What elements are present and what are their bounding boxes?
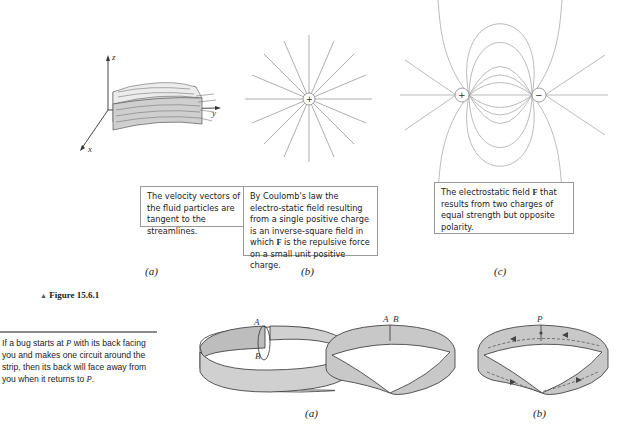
positive-charge: + <box>306 95 313 104</box>
mobius-strip <box>326 325 455 395</box>
caption-b: By Coulomb's law the electro-static fiel… <box>243 186 378 256</box>
mobius-strip-bug-path <box>478 325 608 395</box>
bottom-panel-a-label: (a) <box>305 407 318 419</box>
y-axis-label: y <box>211 108 216 118</box>
triangle-icon: ▲ <box>40 292 47 300</box>
mobius-b-label: B <box>393 314 399 324</box>
bottom-panel-b-label: (b) <box>533 407 546 419</box>
dipole-negative-charge: − <box>535 90 543 100</box>
dipole-field-diagram <box>400 0 608 190</box>
panel-a-label: (a) <box>145 265 158 277</box>
panel-b-label: (b) <box>301 265 314 277</box>
side-note: If a bug starts at P with its back facin… <box>2 337 162 385</box>
side-note-rule <box>0 331 157 333</box>
dipole-positive-charge: + <box>458 90 466 100</box>
x-axis-label: x <box>87 144 92 154</box>
point-p-label: P <box>536 314 543 324</box>
point-a-label: A <box>253 317 260 327</box>
figure-title: ▲ Figure 15.6.1 <box>40 290 99 300</box>
mobius-a-label: A <box>382 314 389 324</box>
point-b-label: B <box>255 351 261 361</box>
caption-a: The velocity vectors of the fluid partic… <box>140 186 252 227</box>
panel-c-label: (c) <box>494 265 506 277</box>
caption-c: The electrostatic field F that results f… <box>434 182 574 234</box>
z-axis-label: z <box>111 52 116 62</box>
